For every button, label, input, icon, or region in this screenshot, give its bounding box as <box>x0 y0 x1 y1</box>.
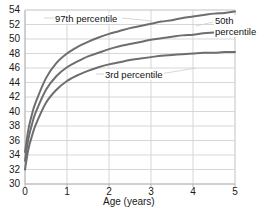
x-axis-title: Age (years) <box>103 197 155 207</box>
series-label-3rd: 3rd percentile <box>104 69 164 80</box>
y-tick-label: 52 <box>0 20 20 30</box>
y-tick-label: 34 <box>0 150 20 160</box>
gridlines <box>25 10 235 184</box>
x-tick-label: 5 <box>228 187 242 197</box>
y-tick-label: 44 <box>0 78 20 88</box>
series-label-50th-line1: 50th <box>215 15 256 26</box>
y-tick-label: 32 <box>0 165 20 175</box>
y-tick-label: 54 <box>0 5 20 15</box>
y-tick-label: 46 <box>0 63 20 73</box>
y-tick-label: 40 <box>0 107 20 117</box>
y-tick-label: 30 <box>0 179 20 189</box>
series-label-50th-line2: percentile <box>215 26 256 37</box>
x-tick-label: 1 <box>60 187 74 197</box>
series-label-97th: 97th percentile <box>54 13 118 24</box>
series-label-50th: 50th percentile <box>214 15 257 37</box>
x-tick-label: 0 <box>18 187 32 197</box>
y-tick-label: 38 <box>0 121 20 131</box>
y-tick-label: 36 <box>0 136 20 146</box>
y-tick-label: 50 <box>0 34 20 44</box>
percentile-curves <box>25 11 235 169</box>
y-tick-label: 42 <box>0 92 20 102</box>
x-tick-label: 4 <box>186 187 200 197</box>
y-tick-label: 48 <box>0 49 20 59</box>
growth-chart: 30323436384042444648505254 012345 Age (y… <box>0 0 270 212</box>
axis-lines <box>25 10 235 187</box>
